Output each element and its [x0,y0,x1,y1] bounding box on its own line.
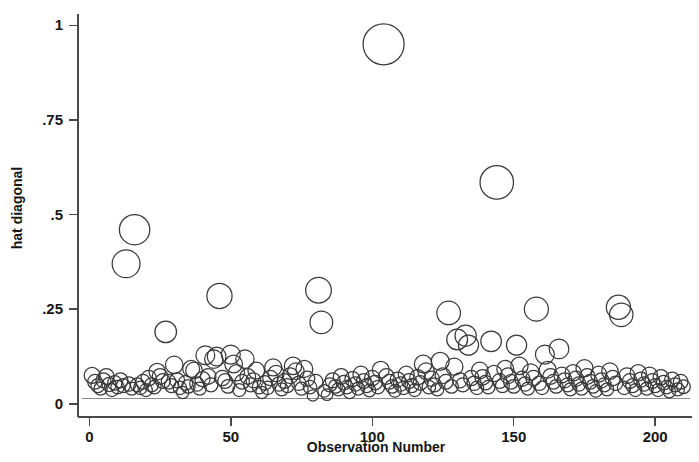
y-tick-label: .75 [42,111,63,128]
chart-figure: 0.25.5.751 050100150200 Observation Numb… [0,0,699,462]
x-axis-title: Observation Number [307,439,446,455]
scatter-plot-canvas: 0.25.5.751 050100150200 Observation Numb… [0,0,699,462]
y-tick-label: .25 [42,300,63,317]
y-axis-title: hat diagonal [9,167,25,249]
x-tick-label: 0 [85,428,93,445]
y-tick-label: .5 [50,206,63,223]
y-tick-label: 1 [55,16,63,33]
x-tick-label: 150 [501,428,526,445]
x-tick-label: 50 [222,428,239,445]
x-tick-label: 200 [643,428,668,445]
y-tick-label: 0 [55,395,63,412]
